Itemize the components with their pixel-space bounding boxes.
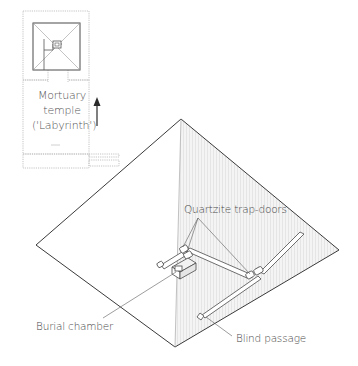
callout-burial-chamber: Burial chamber: [36, 320, 113, 332]
callout-blind-passage: Blind passage: [236, 332, 306, 344]
callout-trap-doors: Quartzite trap-doors: [184, 203, 287, 215]
temple-label: Mortuary temple ('Labyrinth'): [32, 88, 92, 133]
temple-label-line-2: temple: [32, 103, 92, 118]
diagram-canvas: Mortuary temple ('Labyrinth') Quartzite …: [0, 0, 358, 366]
temple-label-line-3: ('Labyrinth'): [32, 118, 92, 133]
pyramid-isometric: [36, 119, 339, 347]
pyramid-plan: [33, 23, 80, 70]
temple-label-line-1: Mortuary: [32, 88, 92, 103]
